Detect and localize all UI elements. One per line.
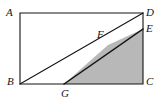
vertex-label-c: C (146, 76, 153, 87)
geometry-canvas (0, 0, 163, 101)
vertex-label-d: D (146, 7, 154, 18)
vertex-label-b: B (7, 76, 14, 87)
vertex-label-f: F (97, 29, 104, 40)
vertex-label-a: A (6, 7, 13, 18)
vertex-label-g: G (61, 88, 69, 99)
geometry-figure: A D E F B G C (0, 0, 163, 101)
vertex-label-e: E (146, 23, 153, 34)
